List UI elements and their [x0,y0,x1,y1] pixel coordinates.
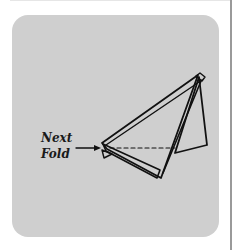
right-arrow-icon [94,145,101,151]
annotation-fold: Fold [41,147,70,162]
paper-fold-diagram [0,0,233,250]
annotation-next: Next [41,131,72,146]
